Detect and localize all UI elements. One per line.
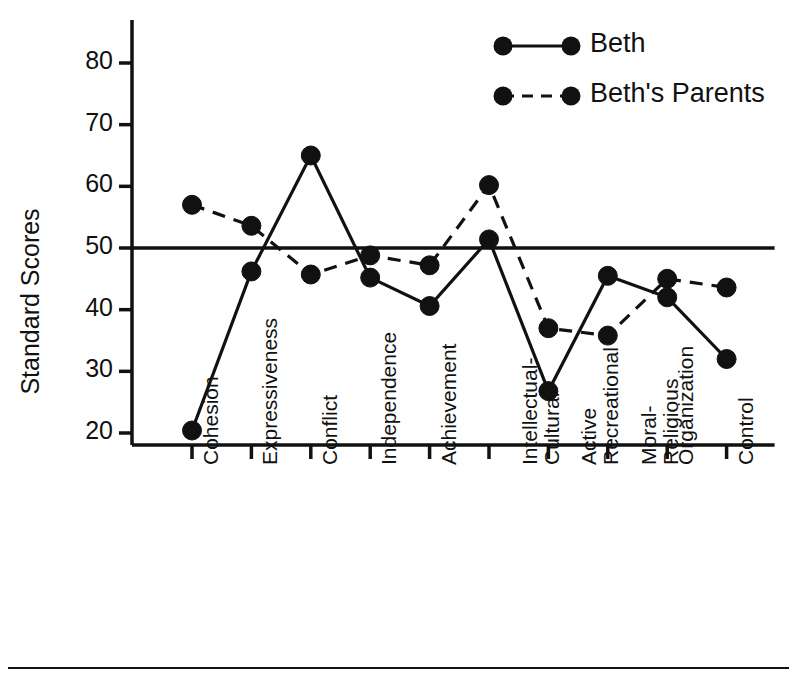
y-tick-label: 20 [53,416,113,445]
x-tick-label: Cohesion [200,376,222,465]
data-point [480,230,499,249]
chart-figure: Standard Scores 20304050607080 CohesionE… [0,0,797,684]
data-point [420,256,439,275]
legend-marker [562,87,581,106]
data-point [598,266,617,285]
data-point [301,146,320,165]
data-point [361,246,380,265]
data-point [361,268,380,287]
y-tick-label: 40 [53,293,113,322]
legend-marker [494,37,513,56]
x-tick-label: ActiveRecreational [578,347,622,465]
data-point [717,350,736,369]
x-tick-label: Achievement [438,344,460,465]
legend-marker [494,87,513,106]
x-tick-label: Expressiveness [259,318,281,465]
y-tick-label: 50 [53,231,113,260]
x-tick-label: Conflict [319,395,341,465]
data-point [539,319,558,338]
data-point [420,297,439,316]
data-point [598,326,617,345]
legend-marker [562,37,581,56]
data-point [183,195,202,214]
y-tick-label: 70 [53,108,113,137]
legend-entry-label: Beth's Parents [590,78,765,109]
data-point [242,216,261,235]
x-tick-label: Intellectual-Cultural [519,358,563,465]
x-tick-label: Organization [675,346,697,465]
x-tick-label: Independence [378,332,400,465]
data-point [717,278,736,297]
series-line [192,185,727,336]
y-axis [119,20,132,445]
legend-marks [494,37,581,106]
data-point [658,269,677,288]
x-tick-label: Control [735,397,757,465]
y-tick-label: 30 [53,354,113,383]
data-point [301,265,320,284]
y-tick-label: 60 [53,169,113,198]
legend-entry-label: Beth [590,28,646,59]
data-point [658,288,677,307]
data-point [480,176,499,195]
data-point [242,262,261,281]
y-tick-label: 80 [53,46,113,75]
